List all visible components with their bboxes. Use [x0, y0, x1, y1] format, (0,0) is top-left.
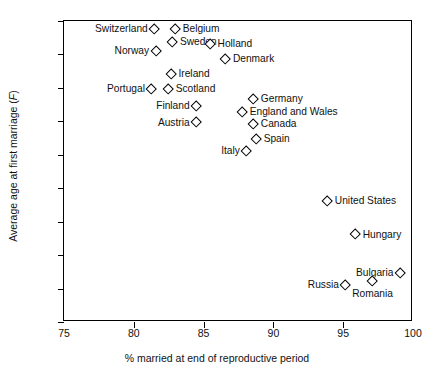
diamond-marker-icon	[162, 83, 174, 95]
data-point-label: Russia	[308, 280, 339, 291]
x-axis-tick-label: 85	[184, 328, 224, 339]
diamond-marker-icon	[165, 68, 177, 80]
diamond-marker-icon	[220, 53, 232, 65]
x-axis-tick-label: 95	[323, 328, 363, 339]
diamond-marker-icon	[146, 83, 158, 95]
data-point-label: United States	[335, 196, 396, 207]
y-axis-tick	[58, 54, 64, 55]
x-axis-title: % married at end of reproductive period	[0, 352, 434, 364]
data-point-label: Holland	[218, 39, 253, 50]
x-axis-tick-label: 80	[114, 328, 154, 339]
data-point-label: Italy	[221, 146, 240, 157]
y-axis-tick	[58, 289, 64, 290]
diamond-marker-icon	[322, 195, 334, 207]
plot-area: SwitzerlandBelgiumNorwaySwedenHollandDen…	[64, 21, 411, 320]
data-point-label: Denmark	[233, 54, 274, 65]
data-point-label: Ireland	[178, 69, 209, 80]
data-point-label: Belgium	[183, 24, 220, 35]
y-axis-tick	[58, 155, 64, 156]
y-axis-tick	[58, 21, 64, 22]
data-point-label: Portugal	[107, 84, 145, 95]
y-axis-tick	[58, 255, 64, 256]
plot-frame: SwitzerlandBelgiumNorwaySwedenHollandDen…	[63, 20, 412, 321]
diamond-marker-icon	[169, 23, 181, 35]
y-axis-tick	[58, 188, 64, 189]
y-axis-tick	[58, 222, 64, 223]
diamond-marker-icon	[236, 107, 248, 119]
data-point-label: Romania	[352, 289, 393, 300]
y-axis-title-text: Average age at first marriage	[7, 107, 19, 242]
diamond-marker-icon	[394, 267, 406, 279]
diamond-marker-icon	[167, 36, 179, 48]
data-point-label: Hungary	[363, 230, 402, 241]
x-axis-tick-label: 90	[253, 328, 293, 339]
diamond-marker-icon	[250, 133, 262, 145]
diamond-marker-icon	[190, 100, 202, 112]
diamond-marker-icon	[248, 93, 260, 105]
data-point-label: Scotland	[176, 84, 216, 95]
diamond-marker-icon	[241, 145, 253, 157]
x-axis-tick-label: 75	[44, 328, 84, 339]
y-axis-tick	[58, 88, 64, 89]
x-axis-tick-label: 100	[393, 328, 433, 339]
diamond-marker-icon	[340, 279, 352, 291]
data-point-label: Norway	[115, 46, 150, 57]
data-point-label: Spain	[264, 134, 290, 145]
diamond-marker-icon	[190, 117, 202, 129]
y-axis-title-italic: F	[7, 94, 19, 100]
diamond-marker-icon	[150, 45, 162, 57]
data-point-label: England and Wales	[250, 107, 338, 118]
data-point-label: Austria	[158, 118, 190, 129]
y-axis-tick	[58, 121, 64, 122]
diamond-marker-icon	[148, 23, 160, 35]
data-point-label: Canada	[261, 119, 297, 130]
y-axis-title: Average age at first marriage (F)	[7, 71, 19, 261]
diamond-marker-icon	[248, 118, 260, 130]
y-axis-title-paren: (F)	[7, 90, 19, 103]
data-point-label: Switzerland	[95, 24, 148, 35]
diamond-marker-icon	[349, 229, 361, 241]
y-axis-tick	[58, 322, 64, 323]
data-point-label: Germany	[261, 94, 303, 105]
data-point-label: Finland	[156, 101, 189, 112]
scatter-plot-figure: SwitzerlandBelgiumNorwaySwedenHollandDen…	[0, 0, 434, 380]
